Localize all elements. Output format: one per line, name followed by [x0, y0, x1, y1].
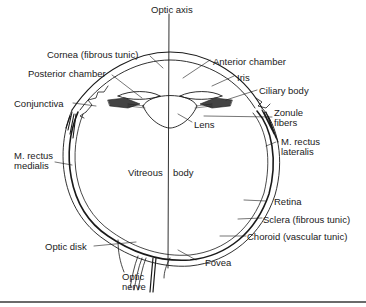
iris-right	[180, 92, 222, 97]
label-fovea: Fovea	[205, 257, 231, 268]
label-choroid: Choroid (vascular tunic)	[247, 231, 347, 242]
label-optic-disk: Optic disk	[45, 241, 87, 252]
eye-diagram: Optic axis Cornea (fibrous tunic) Anteri…	[0, 0, 366, 307]
sclera-outline	[63, 108, 280, 266]
label-lens: Lens	[194, 119, 215, 130]
lens-outline	[143, 96, 197, 129]
label-vitreous: Vitreous	[128, 167, 163, 178]
label-zonule-fibers-2: fibers	[274, 117, 297, 128]
conjunctiva-right	[256, 98, 270, 108]
label-sclera: Sclera (fibrous tunic)	[263, 214, 350, 225]
label-ciliary-body: Ciliary body	[259, 85, 309, 96]
label-optic-nerve-2: nerve	[122, 281, 146, 292]
label-cornea: Cornea (fibrous tunic)	[47, 49, 138, 60]
optic-nerve-right	[150, 258, 156, 292]
label-m-rectus-medialis-2: medialis	[14, 160, 49, 171]
label-retina: Retina	[274, 196, 301, 207]
label-m-rectus-lateralis-2: lateralis	[281, 146, 314, 157]
label-posterior-chamber: Posterior chamber	[28, 68, 106, 79]
label-conjunctiva: Conjunctiva	[14, 98, 64, 109]
label-iris: Iris	[237, 72, 250, 83]
label-body: body	[173, 167, 194, 178]
choroid-outline	[69, 111, 273, 260]
bottom-rule	[0, 301, 366, 303]
label-optic-axis: Optic axis	[151, 4, 193, 15]
label-anterior-chamber: Anterior chamber	[213, 56, 286, 67]
